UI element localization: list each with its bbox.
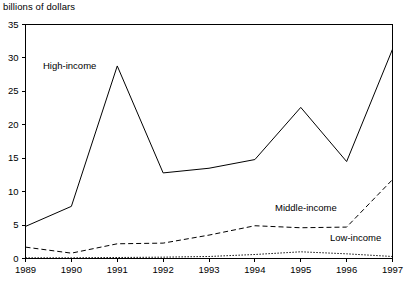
series-line-high-income xyxy=(26,49,393,226)
series-label-middle-income: Middle-income xyxy=(275,203,337,213)
chart-figure: billions of dollars 05101520253035 19891… xyxy=(0,0,412,285)
series-label-high-income: High-income xyxy=(43,61,96,71)
series-line-low-income xyxy=(26,252,393,258)
series-label-low-income: Low-income xyxy=(330,233,381,243)
